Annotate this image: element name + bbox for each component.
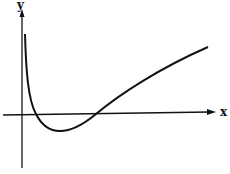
y-axis — [20, 9, 25, 168]
graph: y x — [0, 0, 230, 174]
x-axis-arrow-icon — [207, 109, 216, 115]
x-axis-label: x — [220, 105, 228, 119]
y-axis-label: y — [16, 0, 25, 12]
function-curve — [25, 34, 208, 131]
